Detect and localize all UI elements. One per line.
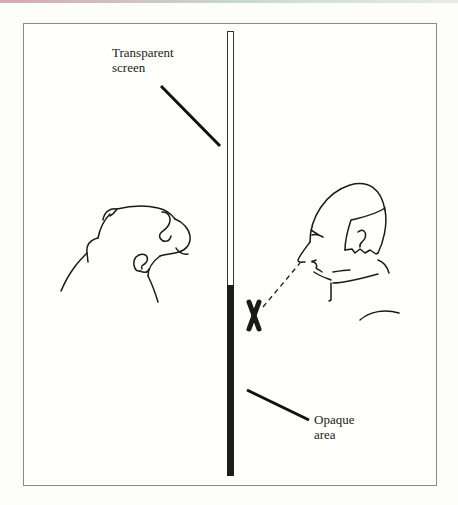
x-marker-icon bbox=[249, 302, 259, 329]
opaque-area-label: Opaque area bbox=[314, 412, 354, 442]
monkey-head-icon bbox=[61, 206, 190, 302]
screen bbox=[227, 32, 234, 477]
label-line-2: screen bbox=[112, 60, 174, 75]
gaze-line bbox=[263, 263, 300, 307]
label-line-1: Transparent bbox=[112, 45, 174, 60]
human-head-icon bbox=[298, 184, 399, 320]
label-line-2: area bbox=[314, 427, 354, 442]
transparent-screen-label: Transparent screen bbox=[112, 45, 174, 75]
label-line-1: Opaque bbox=[314, 412, 354, 427]
transparent-pointer-line bbox=[161, 86, 220, 146]
diagram-art bbox=[0, 0, 458, 505]
opaque-pointer-line bbox=[247, 390, 309, 420]
opaque-screen-section bbox=[227, 285, 234, 476]
transparent-screen-section bbox=[228, 32, 234, 286]
